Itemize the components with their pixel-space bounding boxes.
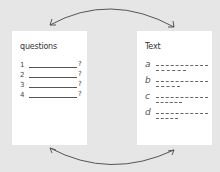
- text-placeholder-line: [156, 113, 208, 114]
- text-placeholder-line: [156, 118, 178, 119]
- text-placeholder-line: [156, 97, 208, 98]
- text-placeholder-line: [156, 65, 208, 66]
- question-mark: ?: [78, 80, 82, 88]
- question-number: 1: [20, 61, 24, 69]
- item-letter: b: [145, 75, 151, 85]
- question-mark: ?: [78, 70, 82, 78]
- text-card: Text a b c d: [137, 31, 212, 145]
- question-mark: ?: [78, 90, 82, 98]
- question-number: 3: [20, 81, 24, 89]
- text-placeholder-line: [156, 86, 180, 87]
- answer-line: [29, 77, 77, 78]
- item-letter: c: [145, 91, 150, 101]
- text-item: b: [145, 77, 209, 93]
- text-item: a: [145, 61, 209, 77]
- questions-card: questions 1 ? 2 ? 3 ? 4 ?: [12, 31, 87, 145]
- answer-line: [29, 67, 77, 68]
- question-number: 2: [20, 71, 24, 79]
- text-item: d: [145, 109, 209, 125]
- question-item: 4 ?: [20, 91, 82, 100]
- text-placeholder-line: [156, 81, 208, 82]
- question-item: 1 ?: [20, 61, 82, 70]
- item-letter: d: [145, 107, 151, 117]
- question-number: 4: [20, 91, 24, 99]
- text-placeholder-line: [156, 102, 182, 103]
- item-letter: a: [145, 59, 151, 69]
- questions-title: questions: [20, 42, 57, 51]
- question-item: 3 ?: [20, 81, 82, 90]
- top-arrow-curve: [50, 9, 174, 27]
- bottom-arrow-curve: [50, 148, 174, 165]
- text-placeholder-line: [156, 70, 186, 71]
- text-item: c: [145, 93, 209, 109]
- answer-line: [29, 87, 77, 88]
- answer-line: [29, 97, 77, 98]
- question-item: 2 ?: [20, 71, 82, 80]
- text-title: Text: [145, 42, 160, 51]
- question-mark: ?: [78, 60, 82, 68]
